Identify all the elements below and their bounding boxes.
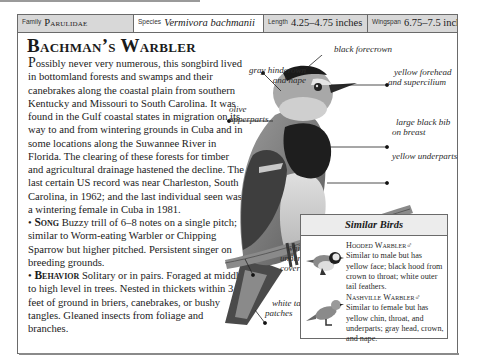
bullet-icon: • xyxy=(28,270,32,281)
description-text: ossibly never very numerous, this songbi… xyxy=(28,58,244,215)
label-gray-hindcrown: gray hindcrown and nape xyxy=(249,65,306,85)
label-line: yellow forehead xyxy=(388,67,451,77)
species-title: Bachman’s Warbler xyxy=(27,35,196,57)
top-rule xyxy=(0,0,200,2)
similar-bird-description: Similar to male but has yellow face; bla… xyxy=(346,251,442,291)
species-description: Possibly never very numerous, this songb… xyxy=(28,56,246,335)
male-symbol-icon: ♂ xyxy=(406,241,412,250)
hooded-warbler-icon xyxy=(304,247,344,277)
label-line: and nape xyxy=(249,75,306,85)
similar-birds-box: Similar Birds Hooded Warbler♂ Similar to… xyxy=(300,214,448,339)
label-line: gray hindcrown xyxy=(249,65,306,75)
wingspan-cell: Wingspan 6.75–7.5 inches xyxy=(368,15,457,32)
similar-bird-description: Similar to female but has yellow chin, t… xyxy=(346,303,444,343)
species-header-bar: Family Parulidae Species Vermivora bachm… xyxy=(18,15,457,33)
behavior-heading: Behavior xyxy=(34,269,79,281)
label-large-black-bib: large black bib on breast xyxy=(392,117,450,137)
description-paragraph: Possibly never very numerous, this songb… xyxy=(28,56,246,216)
family-cell: Family Parulidae xyxy=(18,15,134,32)
similar-bird-entry: Nashville Warbler♂ Similar to female but… xyxy=(301,293,447,343)
hooded-warbler-text: Hooded Warbler♂ Similar to male but has … xyxy=(346,241,446,292)
male-symbol-icon: ♂ xyxy=(415,293,421,302)
similar-birds-title: Similar Birds xyxy=(301,215,447,236)
family-value: Parulidae xyxy=(44,17,87,28)
behavior-section: • Behavior Solitary or in pairs. Foraged… xyxy=(28,269,246,335)
similar-bird-entry: Hooded Warbler♂ Similar to male but has … xyxy=(301,241,447,291)
species-value: Vermivora bachmanii xyxy=(164,17,255,28)
nashville-warbler-text: Nashville Warbler♂ Similar to female but… xyxy=(346,293,446,344)
label-line: upperparts xyxy=(229,114,269,124)
label-olive-upperparts: olive upperparts xyxy=(229,104,269,124)
drop-cap: P xyxy=(28,55,36,70)
label-line: olive xyxy=(229,104,269,114)
label-line: and supercilium xyxy=(388,77,451,87)
family-label: Family xyxy=(22,18,41,25)
bullet-icon: • xyxy=(28,217,32,228)
label-yellow-forehead: yellow forehead and supercilium xyxy=(388,67,451,87)
length-value: 4.25–4.75 inches xyxy=(291,17,362,28)
song-section: • Song Buzzy trill of 6–8 notes on a sin… xyxy=(28,216,246,269)
page-shadow xyxy=(19,353,459,355)
label-yellow-underparts: yellow underparts xyxy=(392,151,457,161)
wingspan-label: Wingspan xyxy=(372,18,401,25)
length-cell: Length 4.25–4.75 inches xyxy=(264,15,368,32)
wingspan-value: 6.75–7.5 inches xyxy=(404,17,457,28)
species-cell: Species Vermivora bachmanii xyxy=(134,15,264,32)
label-line: large black bib xyxy=(392,117,450,127)
nashville-warbler-icon xyxy=(304,297,344,327)
similar-bird-name: Hooded Warbler xyxy=(346,241,406,250)
song-text: Buzzy trill of 6–8 notes on a single pit… xyxy=(28,217,237,268)
species-label: Species xyxy=(138,18,161,25)
length-label: Length xyxy=(268,18,288,25)
label-black-forecrown: black forecrown xyxy=(334,44,392,54)
similar-bird-name: Nashville Warbler xyxy=(346,293,415,302)
label-line: on breast xyxy=(392,127,450,137)
song-heading: Song xyxy=(34,216,59,228)
